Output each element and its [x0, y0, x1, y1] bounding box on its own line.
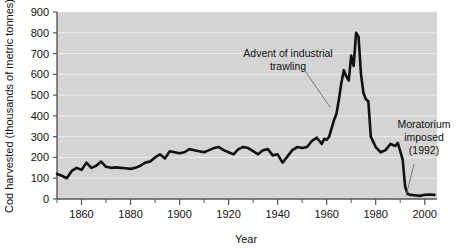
y-tick-label-900: 900	[31, 6, 49, 18]
x-tick-label-1860: 1860	[69, 208, 93, 220]
y-tick-label-100: 100	[31, 172, 49, 184]
annotation-label-advent-of-industrial-trawling-line2: trawling	[270, 60, 306, 72]
y-tick-label-600: 600	[31, 68, 49, 80]
y-tick-label-700: 700	[31, 48, 49, 60]
chart-svg: 0100200300400500600700800900 18601880190…	[0, 0, 460, 251]
plot-area	[57, 12, 437, 199]
y-axis-title: Cod harvested (thousands of metric tonne…	[3, 0, 15, 213]
annotation-label-moratorium-imposed-line2: imposed	[404, 131, 444, 143]
plot-background	[57, 12, 437, 199]
y-tick-label-400: 400	[31, 110, 49, 122]
x-tick-label-2000: 2000	[412, 208, 436, 220]
annotation-label-moratorium-imposed-line1: Moratorium	[397, 118, 450, 130]
x-tick-label-1920: 1920	[216, 208, 240, 220]
y-tick-label-300: 300	[31, 131, 49, 143]
x-tick-label-1980: 1980	[363, 208, 387, 220]
x-axis-title: Year	[235, 233, 258, 245]
x-tick-label-1900: 1900	[167, 208, 191, 220]
y-tick-label-800: 800	[31, 27, 49, 39]
y-tick-label-0: 0	[43, 193, 49, 205]
y-tick-label-500: 500	[31, 89, 49, 101]
cod-harvest-chart: 0100200300400500600700800900 18601880190…	[0, 0, 460, 251]
annotation-label-moratorium-imposed-line3: (1992)	[409, 144, 439, 156]
x-tick-label-1940: 1940	[265, 208, 289, 220]
x-tick-label-1960: 1960	[314, 208, 338, 220]
x-tick-label-1880: 1880	[118, 208, 142, 220]
y-tick-label-200: 200	[31, 151, 49, 163]
annotation-label-advent-of-industrial-trawling-line1: Advent of industrial	[243, 47, 332, 59]
